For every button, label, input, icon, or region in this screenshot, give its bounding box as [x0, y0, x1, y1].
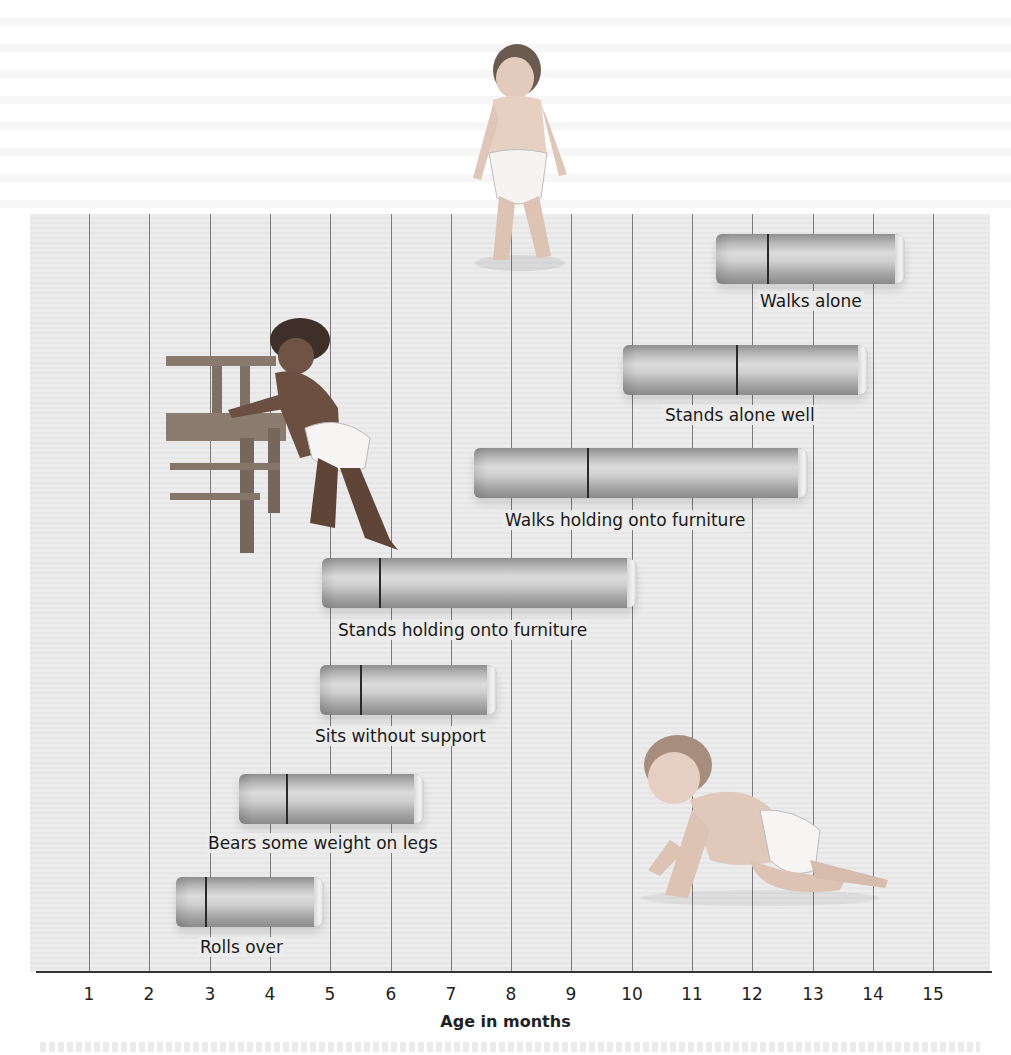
x-tick-15: 15: [913, 984, 953, 1004]
gridline-1: [89, 214, 90, 972]
x-tick-2: 2: [129, 984, 169, 1004]
median-mark: [286, 774, 288, 824]
bar-end-cap: [895, 234, 905, 284]
bar-end-cap: [627, 558, 637, 608]
x-axis-title: Age in months: [0, 1012, 1011, 1031]
label-rolls-over: Rolls over: [198, 937, 285, 957]
label-walks-holding-onto-furniture: Walks holding onto furniture: [503, 510, 747, 530]
x-tick-4: 4: [250, 984, 290, 1004]
median-mark: [767, 234, 769, 284]
x-tick-6: 6: [371, 984, 411, 1004]
infant-crawling-illustration: [630, 720, 895, 910]
median-mark: [379, 558, 381, 608]
x-tick-7: 7: [431, 984, 471, 1004]
bar-end-cap: [798, 448, 808, 498]
bar-end-cap: [314, 877, 324, 927]
median-mark: [205, 877, 207, 927]
gridline-15: [933, 214, 934, 972]
label-walks-alone: Walks alone: [758, 291, 864, 311]
x-tick-10: 10: [612, 984, 652, 1004]
bar-rolls-over: [176, 877, 324, 927]
label-sits-without-support: Sits without support: [313, 726, 488, 746]
bar-stands-holding-onto-furniture: [322, 558, 637, 608]
median-mark: [736, 345, 738, 395]
bar-end-cap: [414, 774, 424, 824]
x-tick-14: 14: [853, 984, 893, 1004]
x-tick-12: 12: [732, 984, 772, 1004]
bar-walks-alone: [716, 234, 905, 284]
label-stands-alone-well: Stands alone well: [663, 405, 817, 425]
infant-standing-at-chair-illustration: [160, 318, 405, 558]
bar-end-cap: [858, 345, 868, 395]
x-tick-9: 9: [551, 984, 591, 1004]
median-mark: [360, 665, 362, 715]
bar-stands-alone-well: [623, 345, 868, 395]
label-bears-some-weight-on-legs: Bears some weight on legs: [206, 833, 440, 853]
x-tick-1: 1: [69, 984, 109, 1004]
toddler-walking-illustration: [455, 38, 585, 273]
x-axis-line: [36, 971, 992, 973]
x-tick-8: 8: [491, 984, 531, 1004]
x-tick-5: 5: [310, 984, 350, 1004]
x-tick-13: 13: [793, 984, 833, 1004]
bar-walks-holding-onto-furniture: [474, 448, 808, 498]
bar-end-cap: [487, 665, 497, 715]
bar-sits-without-support: [320, 665, 497, 715]
x-tick-3: 3: [190, 984, 230, 1004]
median-mark: [587, 448, 589, 498]
bar-bears-some-weight-on-legs: [239, 774, 424, 824]
gridline-2: [149, 214, 150, 972]
label-stands-holding-onto-furniture: Stands holding onto furniture: [336, 620, 589, 640]
x-tick-11: 11: [672, 984, 712, 1004]
figure-caption-cropped: [40, 1042, 980, 1052]
